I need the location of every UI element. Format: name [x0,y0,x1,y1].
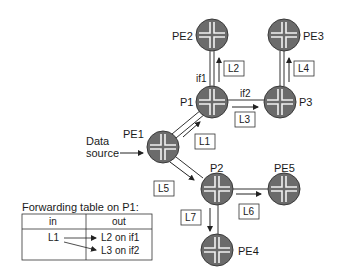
router-label-pe1: PE1 [123,128,144,140]
svg-text:L4: L4 [298,63,310,74]
svg-text:L5: L5 [158,183,170,194]
forwarding-table-title: Forwarding table on P1: [22,201,139,213]
link-p3-pe3 [280,51,284,86]
label-box-l1: L1 [195,134,215,149]
forwarding-table-out-value-1: L2 on if1 [101,232,140,243]
router-label-p1: P1 [180,96,193,108]
label-box-l6: L6 [239,204,259,219]
router-pe2[interactable] [196,19,228,51]
router-label-pe2: PE2 [172,30,193,42]
link-pe1-p2 [176,157,203,178]
router-label-pe4: PE4 [238,245,259,257]
router-p3[interactable] [264,86,296,118]
data-source-line2: source [86,147,119,159]
router-label-p3: P3 [299,96,312,108]
label-box-l2: L2 [224,61,244,76]
label-box-l7: L7 [181,210,201,225]
forwarding-table-out-value-2: L3 on if2 [101,245,140,256]
svg-text:L1: L1 [199,136,211,147]
router-pe3[interactable] [268,19,300,51]
network-diagram: PE2 PE3 P1 P3 PE1 P2 PE5 PE4 if1 if2 Dat… [0,0,338,279]
interface-label-if2: if2 [240,88,251,99]
router-label-p2: P2 [210,162,223,174]
arrow-l5 [170,162,194,180]
router-p2[interactable] [201,173,233,205]
forwarding-table-header-in: in [49,216,57,227]
svg-text:L6: L6 [243,206,255,217]
router-pe4[interactable] [201,234,233,266]
router-pe5[interactable] [268,173,300,205]
svg-text:L3: L3 [239,114,251,125]
interface-label-if1: if1 [196,73,207,84]
svg-text:L7: L7 [185,212,197,223]
label-box-l3: L3 [235,112,255,127]
data-source-line1: Data [86,135,110,147]
label-box-l5: L5 [154,181,174,196]
link-p1-pe2 [210,51,214,86]
svg-text:L2: L2 [228,63,240,74]
router-label-pe3: PE3 [303,30,324,42]
label-box-l4: L4 [294,61,314,76]
router-p1[interactable] [196,86,228,118]
forwarding-table-in-value: L1 [48,232,60,243]
router-pe1[interactable] [147,131,179,163]
router-label-pe5: PE5 [274,162,295,174]
forwarding-table-header-out: out [112,216,126,227]
